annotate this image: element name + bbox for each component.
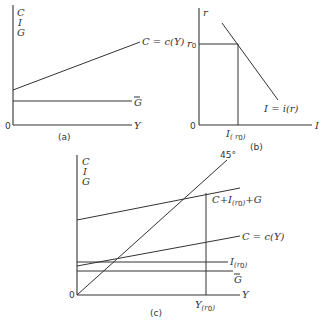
panel-c-consumption-label: C = c(Y) — [242, 231, 284, 242]
panel-b-curve-label: I = i(r) — [263, 103, 299, 114]
panel-a-origin: 0 — [5, 121, 11, 131]
panel-a-caption: (a) — [58, 132, 71, 142]
panel-b-investment-curve — [222, 23, 278, 100]
panel-b: r I 0 r0 I = i(r) I( r0) (b) — [187, 7, 320, 152]
panel-a-consumption-label: C = c(Y) — [142, 36, 184, 47]
panel-c-x-label: Y — [242, 289, 250, 300]
panel-b-y-label: r — [203, 7, 209, 18]
panel-c-investment-label: I(r0) — [229, 256, 248, 270]
panel-a-gov-label: G — [134, 97, 142, 108]
panel-a-y-label-g: G — [17, 27, 25, 38]
keynesian-cross-diagram: C I G 0 Y C = c(Y) G (a) r I 0 r0 I = i(… — [0, 0, 328, 320]
panel-a: C I G 0 Y C = c(Y) G (a) — [5, 5, 184, 142]
panel-c-equilibrium-label: Y(r0) — [195, 299, 215, 313]
panel-c-angle-label: 45° — [220, 150, 236, 160]
panel-c-45-degree-line — [77, 160, 227, 295]
panel-c-y-label-g: G — [82, 176, 90, 187]
panel-a-consumption-line — [13, 42, 140, 90]
panel-b-origin: 0 — [190, 121, 196, 131]
panel-b-i-r0-label: I( r0) — [225, 128, 246, 142]
panel-c-gov-label: G — [234, 274, 242, 285]
panel-c-caption: (c) — [150, 308, 162, 318]
panel-b-caption: (b) — [250, 142, 263, 152]
panel-c-origin: 0 — [69, 290, 75, 300]
panel-b-x-label: I — [314, 120, 320, 131]
panel-c-aggregate-label: C+I(r0)+G — [212, 194, 262, 208]
panel-b-r0-label: r0 — [187, 38, 196, 50]
panel-c: C I G 0 Y 45° C+I(r0)+G C = c(Y) I(r0) G… — [69, 150, 284, 318]
panel-a-x-label: Y — [134, 120, 142, 131]
